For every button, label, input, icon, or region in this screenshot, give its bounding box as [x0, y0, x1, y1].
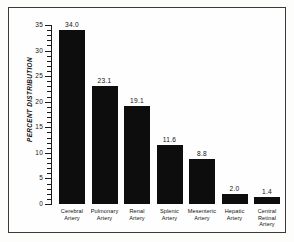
bar[interactable]	[59, 30, 85, 204]
bar[interactable]	[189, 159, 215, 204]
y-axis-tick-label: 5	[27, 175, 43, 182]
bar-value-label: 23.1	[86, 77, 124, 84]
y-axis-tick-label: 25	[27, 73, 43, 80]
bar-value-label: 1.4	[248, 188, 286, 195]
bar-group[interactable]: 8.8MesentericArtery	[189, 25, 215, 204]
plot-area: 34.0CerebralArtery23.1PulmonaryArtery19.…	[51, 25, 291, 204]
y-axis-tick-label-text: 5	[29, 175, 43, 182]
x-axis-category-label-line: Central	[245, 208, 289, 215]
bar-group[interactable]: 34.0CerebralArtery	[59, 25, 85, 204]
y-axis-tick-label: 30	[27, 48, 43, 55]
y-axis-tick-label: 0	[27, 201, 43, 208]
bar-group[interactable]: 1.4CentralRetinalArtery	[254, 25, 280, 204]
y-axis-tick-label-text: 30	[29, 48, 43, 55]
bar[interactable]	[254, 197, 280, 204]
bar-value-label: 8.8	[183, 150, 221, 157]
bar-group[interactable]: 11.6SplenicArtery	[157, 25, 183, 204]
y-axis-major-tick	[45, 204, 52, 205]
bar[interactable]	[124, 106, 150, 204]
x-axis-category-label-line: Retinal	[245, 215, 289, 222]
y-axis-tick-label-text: 15	[29, 124, 43, 131]
y-axis-tick-label: 35	[27, 22, 43, 29]
y-axis-tick-label-text: 25	[29, 73, 43, 80]
bar-value-label: 19.1	[118, 97, 156, 104]
bar[interactable]	[222, 194, 248, 204]
x-axis-category-label: CentralRetinalArtery	[245, 208, 289, 228]
bar[interactable]	[157, 145, 183, 204]
bar-group[interactable]: 2.0HepaticArtery	[222, 25, 248, 204]
y-axis-tick-label: 20	[27, 99, 43, 106]
bar[interactable]	[92, 86, 118, 204]
y-axis-tick-label-text: 20	[29, 99, 43, 106]
y-axis-tick-label-text: 10	[29, 150, 43, 157]
bar-group[interactable]: 23.1PulmonaryArtery	[92, 25, 118, 204]
y-axis-tick-label-text: 35	[29, 22, 43, 29]
y-axis-tick-label: 15	[27, 124, 43, 131]
bar-value-label: 11.6	[151, 136, 189, 143]
figure-frame: PERCENT DISTRIBUTION 05101520253035 34.0…	[8, 7, 286, 233]
y-axis-tick-label-text: 0	[29, 201, 43, 208]
x-axis-category-label-line: Artery	[245, 221, 289, 228]
figure-canvas: PERCENT DISTRIBUTION 05101520253035 34.0…	[0, 0, 294, 242]
bar-group[interactable]: 19.1RenalArtery	[124, 25, 150, 204]
y-axis-tick-label: 10	[27, 150, 43, 157]
bar-value-label: 34.0	[53, 21, 91, 28]
